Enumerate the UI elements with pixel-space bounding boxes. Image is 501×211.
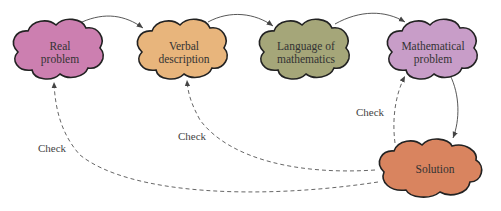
arrow-verbal-to-language	[208, 14, 273, 26]
label-line: Language of	[268, 40, 344, 53]
label-line: Real	[30, 40, 90, 53]
node-math-problem-label: Mathematical problem	[393, 40, 473, 66]
label-line: problem	[30, 53, 90, 66]
check-label-verbal: Check	[178, 130, 206, 142]
label-line: description	[148, 53, 220, 66]
node-verbal-description-label: Verbal description	[148, 40, 220, 66]
check-arrow-solution-to-real	[54, 82, 378, 192]
arrow-real-to-verbal	[82, 16, 143, 28]
arrow-language-to-math	[335, 13, 405, 24]
label-line: Verbal	[148, 40, 220, 53]
check-label-real: Check	[38, 142, 66, 154]
label-line: mathematics	[268, 53, 344, 66]
label-line: problem	[393, 53, 473, 66]
check-label-math: Check	[356, 106, 384, 118]
node-real-problem-label: Real problem	[30, 40, 90, 66]
label-line: Solution	[400, 163, 470, 176]
check-arrow-solution-to-verbal	[187, 80, 375, 171]
node-solution-label: Solution	[400, 163, 470, 176]
label-line: Mathematical	[393, 40, 473, 53]
diagram-canvas	[0, 0, 501, 211]
arrow-math-to-solution	[450, 75, 458, 138]
check-arrow-solution-to-math	[394, 76, 405, 143]
node-language-label: Language of mathematics	[268, 40, 344, 66]
